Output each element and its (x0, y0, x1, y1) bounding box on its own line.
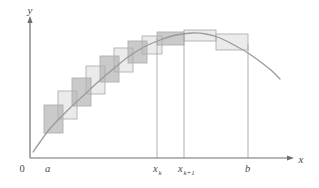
figure-root: y x 0 axkxk+1b (0, 0, 319, 188)
y-axis-label: y (27, 4, 33, 16)
x-axis-label: x (298, 153, 304, 165)
figure-background (0, 0, 319, 188)
tick-label-x-k-plus-1-base: x (177, 163, 183, 174)
tick-label-b: b (245, 163, 250, 174)
tick-label-x-k-plus-1-subscript: k+1 (183, 169, 194, 177)
rect-11 (216, 34, 248, 50)
tick-label-x-k-base: x (152, 163, 158, 174)
tick-label-a-base: a (45, 163, 50, 174)
tick-label-b-base: b (245, 163, 250, 174)
tick-label-a: a (45, 163, 50, 174)
riemann-sum-figure: y x 0 axkxk+1b (0, 0, 319, 188)
origin-label: 0 (19, 163, 24, 174)
